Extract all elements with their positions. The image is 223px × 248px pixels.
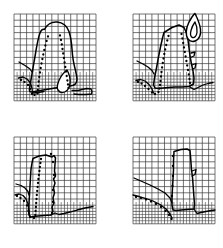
panel-top-left — [8, 8, 108, 112]
panel-bottom-right-canvas — [127, 131, 223, 235]
feature-dots-chain-bottom-left — [33, 158, 42, 219]
panel-top-right — [127, 8, 223, 112]
figure-container — [0, 0, 223, 248]
edge-trace-left-bottom-left — [16, 184, 29, 195]
panel-top-right-canvas — [127, 8, 223, 112]
panel-bottom-left — [8, 131, 108, 235]
feature-dots-left-chain-top-left — [36, 35, 49, 94]
panel-top-left-canvas — [8, 8, 108, 112]
panel-bottom-left-canvas — [8, 131, 108, 235]
panel-bottom-right — [127, 131, 223, 235]
edge-trace-rightnotch-top-right — [191, 52, 195, 57]
